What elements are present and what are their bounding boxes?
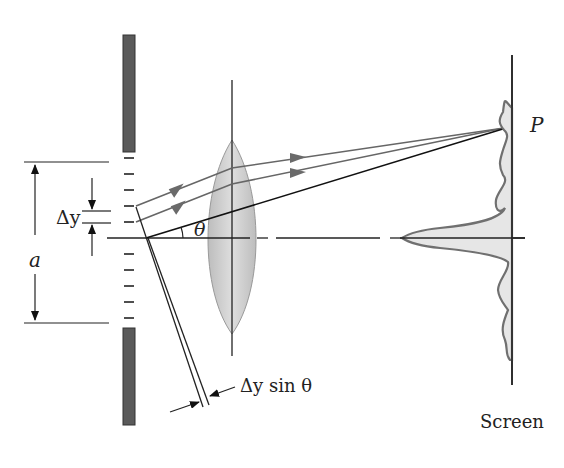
theta-label: θ	[194, 218, 206, 240]
path-difference-label: Δy sin θ	[240, 375, 312, 396]
rays	[136, 128, 504, 222]
ray-arrow-1	[169, 183, 188, 198]
path-difference-arrows	[170, 387, 235, 412]
slit-width-dimension	[24, 162, 109, 323]
theta-arc	[181, 227, 183, 238]
delta-y-dimension	[82, 178, 111, 256]
screen-label: Screen	[480, 411, 544, 432]
delta-y-label: Δy	[56, 206, 81, 228]
diffraction-diagram: a Δy θ Δy sin θ	[0, 0, 564, 468]
point-p-label: P	[529, 113, 544, 137]
slit-width-label: a	[29, 248, 41, 272]
barrier-top	[123, 35, 135, 152]
barrier-bottom	[123, 328, 135, 425]
